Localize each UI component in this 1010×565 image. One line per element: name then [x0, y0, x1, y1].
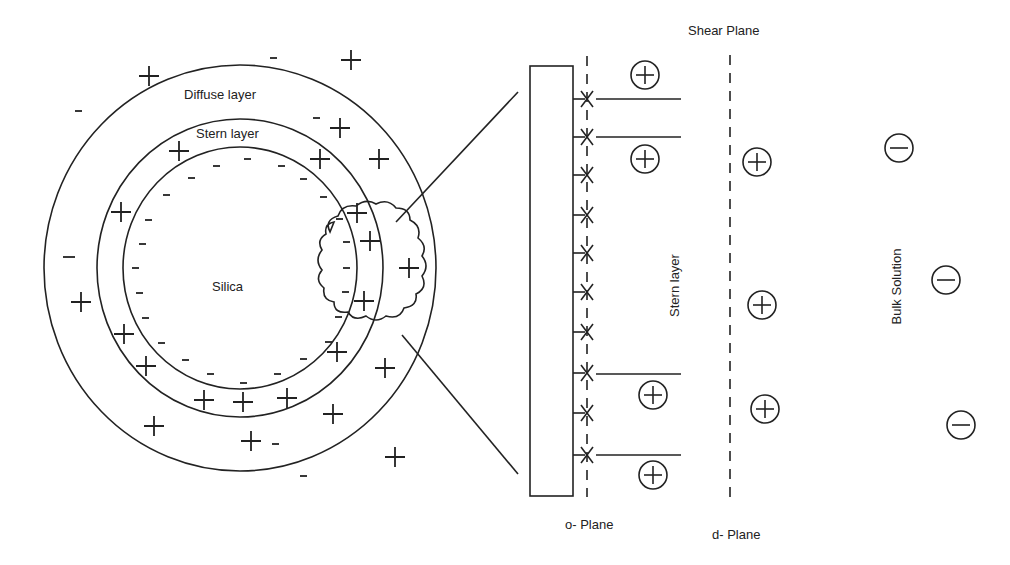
stern-cation-icon [639, 461, 667, 489]
double-layer-diagram [0, 0, 1010, 565]
bulk-anion-icon [885, 134, 913, 162]
stern-layer-circle-label: Stern layer [196, 126, 259, 141]
stern-layer-vertical-label: Stern layer [667, 254, 682, 317]
bulk-anion-icon [932, 266, 960, 294]
diffuse-cation-icon [748, 291, 776, 319]
o-plane-label: o- Plane [565, 517, 613, 532]
diffuse-layer-label: Diffuse layer [184, 87, 256, 102]
silica-core-boundary [123, 147, 357, 389]
stern-layer-boundary [97, 119, 383, 417]
stern-cation-icon [631, 145, 659, 173]
d-plane-label: d- Plane [712, 527, 760, 542]
zoom-line-top [396, 92, 518, 222]
bulk-solution-label: Bulk Solution [889, 249, 904, 325]
stern-cation-icon [639, 381, 667, 409]
diffuse-cation-icon [743, 148, 771, 176]
silica-label: Silica [212, 279, 243, 294]
shear-plane-label: Shear Plane [688, 23, 760, 38]
surface-sites [573, 91, 593, 463]
silica-surface [530, 66, 573, 496]
zoom-line-bottom [402, 335, 518, 474]
diffuse-cation-icon [751, 395, 779, 423]
stern-cation-icon [631, 61, 659, 89]
bulk-anion-icon [947, 411, 975, 439]
